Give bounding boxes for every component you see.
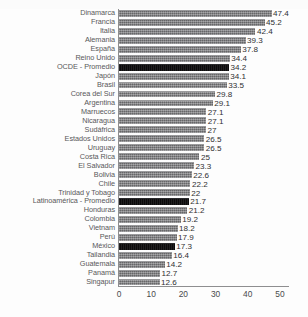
bar-value-label: 22.6	[192, 170, 209, 179]
category-label: Panamá	[88, 269, 115, 277]
bar-track	[119, 73, 229, 80]
bar	[119, 270, 160, 277]
category-label: Guatemala	[80, 260, 115, 268]
bar	[119, 126, 206, 133]
bar-track	[119, 153, 199, 160]
x-tick-label: 30	[211, 289, 220, 299]
bar-track	[119, 144, 204, 151]
bar-track	[119, 10, 272, 17]
bar-value-label: 29.1	[213, 99, 230, 108]
bar-value-label: 22	[190, 188, 201, 197]
bar-row: Latinoamérica - Promedio21.7	[0, 197, 308, 206]
bar-value-label: 27	[206, 125, 217, 134]
bar	[119, 162, 194, 169]
bar-row: Costa Rica25	[0, 152, 308, 161]
category-label: Francia	[91, 18, 115, 26]
bar-value-label: 12.7	[160, 269, 177, 278]
bar-row: Uruguay26.5	[0, 143, 308, 152]
bar	[119, 216, 181, 223]
bar-highlighted	[119, 243, 175, 250]
bar-track	[119, 207, 187, 214]
category-label: Dinamarca	[80, 9, 115, 17]
bar-track	[119, 198, 189, 205]
bar	[119, 19, 265, 26]
bar	[119, 189, 190, 196]
bar-track	[119, 162, 194, 169]
bar-row: Francia45.2	[0, 18, 308, 27]
bar-row: Italia42.4	[0, 27, 308, 36]
bar-row: Panamá12.7	[0, 269, 308, 278]
bar-value-label: 37.8	[241, 45, 258, 54]
bar-value-label: 33.5	[227, 81, 244, 90]
bar	[119, 28, 255, 35]
chart-top-margin	[0, 0, 308, 9]
bar-track	[119, 234, 177, 241]
bar	[119, 46, 241, 53]
bar-row: Chile22.2	[0, 179, 308, 188]
category-label: Reino Unido	[75, 54, 115, 62]
bar	[119, 180, 190, 187]
bar-value-label: 17.3	[175, 242, 192, 251]
bar-chart: Dinamarca47.4Francia45.2Italia42.4Aleman…	[0, 0, 308, 317]
bar-row: El Salvador23.3	[0, 161, 308, 170]
bar-track	[119, 19, 265, 26]
bar-row: Tailandia16.4	[0, 251, 308, 260]
category-label: Costa Rica	[80, 153, 115, 161]
category-label: Uruguay	[88, 144, 115, 152]
bar-row: Colombia19.2	[0, 215, 308, 224]
bar-value-label: 23.3	[194, 161, 211, 170]
bar-row: Corea del Sur29.8	[0, 90, 308, 99]
bar-track	[119, 279, 160, 286]
bar-row: Japón34.1	[0, 72, 308, 81]
bar	[119, 82, 227, 89]
bar	[119, 144, 204, 151]
category-label: Colombia	[85, 215, 115, 223]
category-label: Estados Unidos	[65, 135, 115, 143]
bar-track	[119, 216, 181, 223]
bar-value-label: 19.2	[181, 215, 198, 224]
category-label: Vietnam	[89, 224, 115, 232]
bar-track	[119, 117, 206, 124]
bar-track	[119, 91, 215, 98]
bar-value-label: 17.9	[177, 233, 194, 242]
bar	[119, 279, 160, 286]
category-label: Italia	[100, 27, 115, 35]
bar-track	[119, 135, 204, 142]
bar-row: Estados Unidos26.5	[0, 134, 308, 143]
bar-row: Argentina29.1	[0, 99, 308, 108]
bar-track	[119, 252, 172, 259]
bar	[119, 153, 199, 160]
category-label: OCDE - Promedio	[57, 63, 115, 71]
x-tick-label: 10	[147, 289, 156, 299]
category-label: Marruecos	[81, 108, 115, 116]
bar-track	[119, 243, 175, 250]
x-axis-line	[118, 286, 289, 287]
bar-value-label: 14.2	[165, 260, 182, 269]
plot-area: Dinamarca47.4Francia45.2Italia42.4Aleman…	[0, 9, 308, 287]
bar-value-label: 16.4	[172, 251, 189, 260]
bar	[119, 207, 187, 214]
bar-value-label: 27.1	[206, 107, 223, 116]
category-label: Perú	[100, 233, 115, 241]
bar-track	[119, 189, 190, 196]
category-label: Tailandia	[87, 251, 115, 259]
category-label: Chile	[99, 180, 115, 188]
bar	[119, 10, 272, 17]
bar	[119, 55, 230, 62]
bar-value-label: 22.2	[190, 179, 207, 188]
bar-value-label: 26.5	[204, 134, 221, 143]
bar-value-label: 18.2	[178, 224, 195, 233]
bar-row: Vietnam18.2	[0, 224, 308, 233]
bar	[119, 234, 177, 241]
bar-track	[119, 261, 165, 268]
bar-row: Sudáfrica27	[0, 125, 308, 134]
category-label: Sudáfrica	[85, 126, 115, 134]
bar-value-label: 29.8	[215, 90, 232, 99]
bar-row: Bolivia22.6	[0, 170, 308, 179]
bar-track	[119, 82, 227, 89]
bar-track	[119, 100, 213, 107]
bar-value-label: 34.4	[230, 54, 247, 63]
category-label: Singapur	[86, 278, 115, 286]
bar-row: Brasil33.5	[0, 81, 308, 90]
bar-value-label: 21.7	[189, 197, 206, 206]
